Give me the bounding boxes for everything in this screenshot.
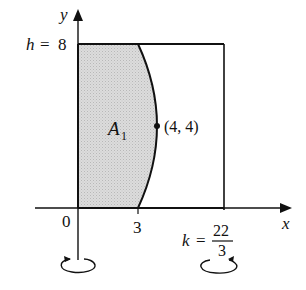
k-var: k: [182, 231, 190, 250]
k-eq: =: [196, 231, 206, 250]
diagram: y x 0 h = 8 3 A 1 (4, 4) k = 22 3: [0, 0, 306, 290]
height-eq: =: [40, 35, 50, 54]
k-numerator: 22: [213, 222, 229, 239]
x-tick-label-3: 3: [133, 218, 142, 237]
origin-label: 0: [62, 212, 71, 231]
k-denominator: 3: [218, 242, 226, 259]
point-marker: [154, 123, 160, 129]
x-axis-label: x: [281, 214, 290, 233]
y-axis-arrow-icon: [73, 9, 83, 21]
x-axis-arrow-icon: [280, 203, 292, 213]
point-label: (4, 4): [164, 118, 199, 136]
region-label-subscript: 1: [121, 129, 127, 143]
region-label: A: [106, 118, 120, 139]
height-var: h: [26, 35, 35, 54]
y-axis-label: y: [58, 5, 68, 24]
height-value: 8: [58, 35, 67, 54]
